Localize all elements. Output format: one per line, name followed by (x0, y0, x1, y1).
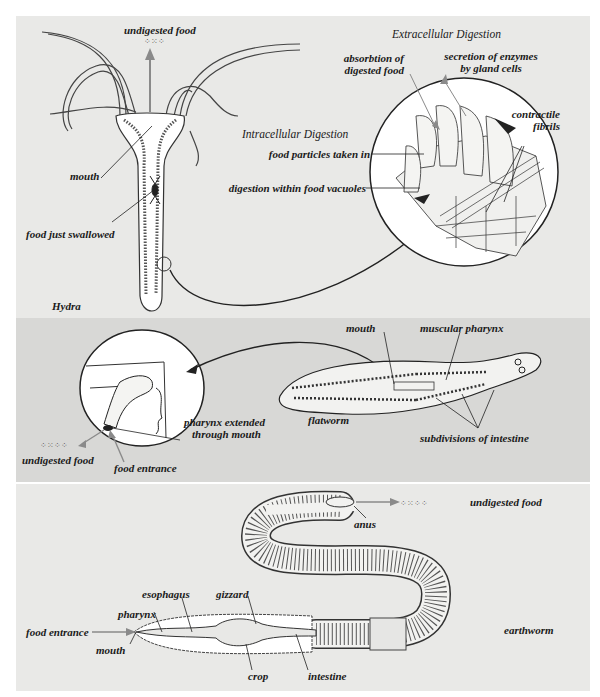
label-mouth: mouth (70, 170, 99, 182)
label-undigested-food: undigested food (22, 454, 94, 466)
organism-name-hydra: Hydra (52, 300, 81, 312)
label-mouth: mouth (346, 322, 375, 334)
label-crop: crop (248, 670, 268, 682)
heading-intracellular-digestion: Intracellular Digestion (242, 128, 348, 140)
label-food-entrance: food entrance (26, 626, 89, 638)
label-anus: anus (354, 518, 376, 530)
label-food-entrance: food entrance (114, 462, 177, 474)
label-absorbtion-line2: digested food (312, 64, 404, 76)
label-secretion-line1: secretion of enzymes (436, 50, 546, 62)
label-muscular-pharynx: muscular pharynx (420, 322, 503, 334)
organism-name-flatworm: flatworm (308, 414, 349, 426)
svg-text:⁘⁙⁘⁘: ⁘⁙⁘⁘ (400, 499, 428, 508)
label-undigested-food: undigested food (470, 496, 542, 508)
label-contractile-line1: contractile (492, 108, 560, 120)
label-gizzard: gizzard (216, 588, 248, 600)
label-intestine: intestine (308, 670, 347, 682)
label-subdivisions-of-intestine: subdivisions of intestine (420, 432, 529, 444)
flatworm-panel: ⁘⁙⁘⁘ mouth muscular pharynx flatworm sub… (16, 318, 590, 482)
label-pharynx-extended-line2: through mouth (192, 428, 261, 440)
label-food-particles-taken-in: food particles taken in (212, 148, 370, 160)
label-undigested-food: undigested food (124, 24, 196, 36)
hydra-panel: ⁘⁙⁘ (16, 16, 590, 318)
label-pharynx: pharynx (118, 608, 156, 620)
earthworm-illustration: ⁘⁙⁘⁘ (16, 484, 590, 691)
heading-extracellular-digestion: Extracellular Digestion (392, 28, 501, 40)
label-secretion-line2: by gland cells (436, 62, 546, 74)
label-mouth: mouth (96, 644, 125, 656)
label-absorbtion-line1: absorbtion of (312, 52, 404, 64)
flatworm-illustration: ⁘⁙⁘⁘ (16, 318, 590, 482)
earthworm-panel: ⁘⁙⁘⁘ anus undigested food esophagus gizz… (16, 484, 590, 691)
label-digestion-within-vacuoles: digestion within food vacuoles (200, 182, 366, 194)
organism-name-earthworm: earthworm (504, 624, 554, 636)
svg-text:⁘⁙⁘: ⁘⁙⁘ (144, 37, 165, 46)
label-esophagus: esophagus (142, 588, 190, 600)
label-contractile-line2: fibrils (492, 120, 560, 132)
label-food-just-swallowed: food just swallowed (26, 228, 115, 240)
svg-text:⁘⁙⁘⁘: ⁘⁙⁘⁘ (40, 441, 68, 450)
label-pharynx-extended-line1: pharynx extended (184, 416, 265, 428)
